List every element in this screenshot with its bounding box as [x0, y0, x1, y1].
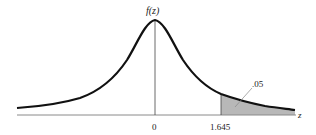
tick-label-critical: 1.645 [210, 122, 231, 132]
normal-distribution-chart: f(z) z 0 1.645 .05 [0, 0, 316, 135]
density-curve [17, 20, 295, 110]
x-axis-label: z [297, 110, 302, 120]
tail-area-label: .05 [252, 79, 264, 89]
y-axis-label: f(z) [146, 5, 160, 17]
tick-label-zero: 0 [152, 122, 157, 132]
